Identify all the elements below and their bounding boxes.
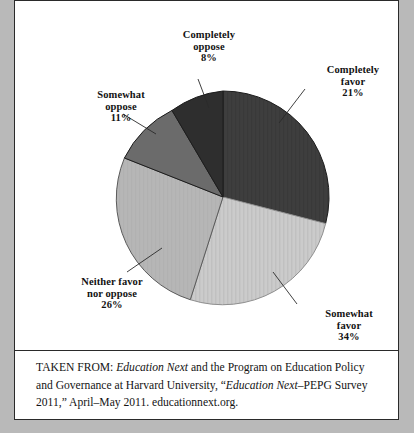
pie-label-completely-oppose-line1: Completely bbox=[149, 29, 269, 41]
source-caption: TAKEN FROM: Education Next and the Progr… bbox=[36, 359, 381, 412]
pie-label-completely-oppose-line2: oppose bbox=[149, 41, 269, 53]
pie-label-somewhat-oppose-line1: Somewhat bbox=[66, 89, 176, 101]
pie-label-completely-oppose-value: 8% bbox=[149, 52, 269, 64]
caption-italic-publication-2: Education Next bbox=[226, 379, 298, 392]
pie-label-neither-favor-nor-oppose: Neither favor nor oppose 26% bbox=[47, 276, 177, 311]
pie-label-somewhat-oppose: Somewhat oppose 11% bbox=[66, 89, 176, 124]
pie-label-completely-favor-line1: Completely bbox=[298, 64, 399, 76]
caption-italic-publication-1: Education Next bbox=[116, 361, 188, 374]
pie-label-somewhat-favor-line2: favor bbox=[293, 320, 399, 332]
pie-label-somewhat-favor-line1: Somewhat bbox=[293, 308, 399, 320]
pie-label-completely-favor-value: 21% bbox=[298, 87, 399, 99]
pie-label-completely-oppose: Completely oppose 8% bbox=[149, 29, 269, 64]
pie-label-somewhat-favor: Somewhat favor 34% bbox=[293, 308, 399, 343]
pie-label-completely-favor-line2: favor bbox=[298, 76, 399, 88]
pie-label-somewhat-oppose-value: 11% bbox=[66, 112, 176, 124]
pie-label-neither-line2: nor oppose bbox=[47, 288, 177, 300]
caption-prefix: TAKEN FROM: bbox=[36, 361, 116, 374]
pie-label-completely-favor: Completely favor 21% bbox=[298, 64, 399, 99]
pie-label-neither-value: 26% bbox=[47, 299, 177, 311]
pie-label-neither-line1: Neither favor bbox=[47, 276, 177, 288]
pie-label-somewhat-oppose-line2: oppose bbox=[66, 101, 176, 113]
pie-chart-area: Completely oppose 8% Somewhat oppose 11%… bbox=[15, 1, 398, 350]
pie-label-somewhat-favor-value: 34% bbox=[293, 331, 399, 343]
caption-divider bbox=[15, 350, 398, 351]
figure-frame: Completely oppose 8% Somewhat oppose 11%… bbox=[14, 0, 399, 420]
